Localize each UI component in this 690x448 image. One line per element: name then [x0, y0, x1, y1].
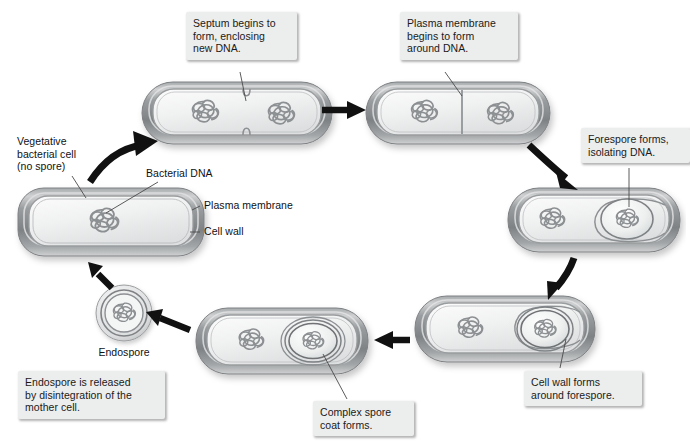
arrow-cellwall-to-sporecoat	[374, 331, 410, 349]
stage-vegetative-cell[interactable]	[18, 188, 204, 256]
stage-cell-wall-forespore[interactable]	[415, 296, 595, 362]
stage-spore-coat-cell[interactable]	[196, 308, 368, 374]
callout-cell-wall-forms[interactable]: Cell wall forms around forespore.	[524, 371, 642, 406]
stage-forespore-cell[interactable]	[508, 188, 680, 252]
arrow-forespore-to-cellwall	[547, 258, 574, 300]
stage-free-endospore[interactable]	[96, 285, 152, 341]
label-cell-wall: Cell wall	[204, 225, 244, 238]
callout-endospore-released[interactable]: Endospore is released by disintegration …	[18, 371, 165, 419]
callout-septum[interactable]: Septum begins to form, enclosing new DNA…	[186, 12, 297, 60]
stage-plasma-membrane-cell[interactable]	[366, 82, 550, 144]
callout-spore-coat-forms[interactable]: Complex spore coat forms.	[313, 401, 414, 436]
label-plasma-membrane: Plasma membrane	[204, 199, 293, 212]
label-endospore: Endospore	[88, 346, 160, 359]
label-vegetative-cell: Vegetative bacterial cell (no spore)	[17, 135, 103, 173]
arrow-membrane-to-forespore	[529, 145, 578, 190]
callout-plasma-membrane-forms[interactable]: Plasma membrane begins to form around DN…	[400, 12, 518, 60]
arrow-sporecoat-to-endospore	[146, 309, 190, 330]
stage-septum-cell[interactable]	[142, 82, 332, 144]
label-bacterial-dna: Bacterial DNA	[146, 167, 213, 180]
callout-forespore-forms[interactable]: Forespore forms, isolating DNA.	[581, 128, 690, 163]
arrow-endospore-to-vegetative	[88, 262, 112, 288]
